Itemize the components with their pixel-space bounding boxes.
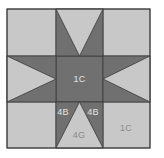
- label-bottom-left-star-point: 4B: [57, 107, 68, 117]
- corner-square-top-left: [7, 9, 56, 56]
- label-center-piece: 1C: [74, 74, 86, 84]
- label-bottom-middle-triangle: 4G: [73, 130, 85, 140]
- label-bottom-right-star-point: 4B: [87, 107, 98, 117]
- star-point-unit-right: [103, 56, 150, 102]
- star-point-unit-left: [7, 56, 56, 102]
- corner-square-bottom-left: [7, 102, 56, 148]
- star-point-unit-top: [56, 9, 103, 56]
- label-bottom-right-corner: 1C: [120, 123, 132, 133]
- corner-square-top-right: [103, 9, 150, 56]
